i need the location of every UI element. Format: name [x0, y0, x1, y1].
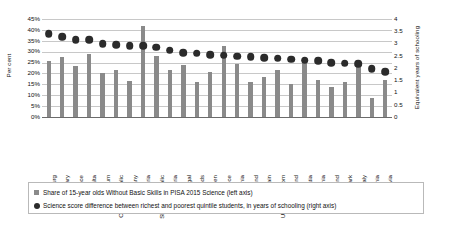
y-axis-left-tick-label: 40%	[16, 27, 40, 33]
bar	[316, 80, 320, 117]
y-axis-right-tick-label: 1.5	[394, 77, 416, 83]
bar	[195, 82, 199, 117]
data-point-dot	[166, 47, 174, 55]
data-point-dot	[314, 57, 322, 65]
bar	[235, 64, 239, 117]
gridline	[42, 106, 392, 107]
data-point-dot	[112, 41, 120, 49]
data-point-dot	[153, 43, 161, 51]
gridline	[42, 52, 392, 53]
bar	[302, 63, 306, 117]
y-axis-left-tick-label: 30%	[16, 48, 40, 54]
data-point-dot	[85, 36, 93, 44]
y-axis-right-tick-label: 3.5	[394, 28, 416, 34]
legend-item-bars-label: Share of 15-year olds Without Basic Skil…	[43, 189, 253, 196]
bar	[356, 66, 360, 117]
data-point-dot	[274, 54, 282, 62]
data-point-dot	[301, 56, 309, 64]
data-point-dot	[341, 59, 349, 67]
data-point-dot	[193, 50, 201, 58]
chart-legend: Share of 15-year olds Without Basic Skil…	[28, 182, 424, 214]
data-point-dot	[72, 36, 80, 44]
bar	[87, 54, 91, 117]
gridline	[42, 41, 392, 42]
data-point-dot	[368, 65, 376, 73]
x-axis-line	[42, 117, 392, 118]
gridline	[42, 63, 392, 64]
data-point-dot	[328, 59, 336, 67]
data-point-dot	[381, 68, 389, 76]
y-axis-left-tick-label: 10%	[16, 92, 40, 98]
y-axis-right-tick-label: 4	[394, 16, 416, 22]
gridline	[42, 84, 392, 85]
y-axis-right-tick-label: 0	[394, 114, 416, 120]
bar	[181, 65, 185, 117]
bar	[47, 61, 51, 117]
data-point-dot	[206, 51, 214, 59]
data-point-dot	[45, 30, 53, 38]
gridline	[42, 30, 392, 31]
data-point-dot	[58, 33, 66, 41]
y-axis-left-tick-label: 20%	[16, 70, 40, 76]
bar	[329, 87, 333, 117]
bar	[275, 70, 279, 117]
data-point-dot	[260, 54, 268, 62]
bar	[100, 73, 104, 117]
bar	[208, 72, 212, 117]
gridline	[42, 73, 392, 74]
square-swatch-icon	[34, 190, 39, 195]
y-axis-left-title: Per cent	[5, 44, 12, 88]
bar	[154, 56, 158, 117]
y-axis-right-tick-label: 0.5	[394, 102, 416, 108]
y-axis-left-tick-label: 15%	[16, 81, 40, 87]
bar	[383, 80, 387, 117]
y-axis-left-tick-label: 5%	[16, 103, 40, 109]
bar	[289, 84, 293, 117]
y-axis-left-tick-label: 0%	[16, 114, 40, 120]
data-point-dot	[247, 53, 255, 61]
data-point-dot	[180, 49, 188, 57]
chart-container: Per cent Equivalent years of schooling 4…	[0, 0, 451, 232]
bar	[168, 70, 172, 117]
data-point-dot	[355, 60, 363, 68]
y-axis-right-tick-label: 1	[394, 89, 416, 95]
legend-item-dots: Science score difference between richest…	[34, 199, 418, 212]
y-axis-right-tick-label: 2	[394, 65, 416, 71]
data-point-dot	[287, 56, 295, 64]
data-point-dot	[139, 42, 147, 50]
bar	[127, 81, 131, 117]
bar	[343, 82, 347, 117]
bar	[141, 26, 145, 117]
bar	[60, 57, 64, 117]
y-axis-right-tick-label: 3	[394, 40, 416, 46]
data-point-dot	[233, 52, 241, 60]
bar	[248, 82, 252, 117]
bar	[262, 77, 266, 117]
gridline	[42, 19, 392, 20]
y-axis-left-tick-label: 25%	[16, 59, 40, 65]
y-axis-right-tick-label: 2.5	[394, 53, 416, 59]
bar	[370, 98, 374, 117]
x-axis-category-labels: LuxembourgHungaryFranceMaltaBelgiumCzech…	[42, 119, 392, 177]
plot-area	[42, 19, 392, 117]
bar	[73, 66, 77, 117]
gridline	[42, 95, 392, 96]
data-point-dot	[126, 42, 134, 50]
data-point-dot	[220, 51, 228, 59]
legend-item-dots-label: Science score difference between richest…	[43, 202, 336, 209]
legend-item-bars: Share of 15-year olds Without Basic Skil…	[34, 186, 418, 199]
circle-swatch-icon	[34, 203, 40, 209]
bar	[114, 70, 118, 117]
y-axis-left-tick-label: 45%	[16, 16, 40, 22]
data-point-dot	[99, 40, 107, 48]
y-axis-left-tick-label: 35%	[16, 38, 40, 44]
